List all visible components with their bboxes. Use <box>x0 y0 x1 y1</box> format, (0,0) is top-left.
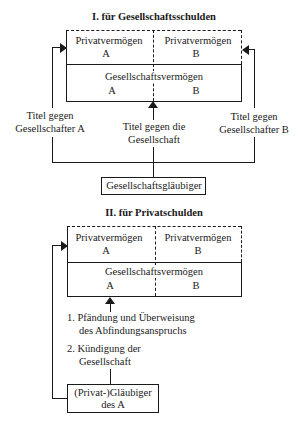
creditor-connector <box>52 162 255 163</box>
step1-line1: Pfändung und Überweisung <box>78 312 195 323</box>
arrow-right-icon <box>61 241 68 251</box>
path-company-upper <box>153 106 154 120</box>
path-from-creditor <box>52 398 67 399</box>
section1-title: I. für Gesellschaftsschulden <box>92 11 216 23</box>
company-assets-a: A <box>108 85 116 97</box>
private-assets-b-label: Privatvermögen <box>164 35 231 47</box>
private-creditor-line2: des A <box>101 399 125 411</box>
arrow-left-icon <box>242 45 249 55</box>
path-b-to-arrow <box>248 49 255 50</box>
private-creditor-box: (Privat-)Gläubiger des A <box>67 384 159 413</box>
private-assets-a-label: Privatvermögen <box>75 35 142 47</box>
private-assets-top-border <box>67 226 241 227</box>
title-against-company-line1: Titel gegen die <box>123 121 186 133</box>
path-to-arrow <box>52 245 61 246</box>
path-steps-lower <box>110 369 111 384</box>
private-assets-a-owner: A <box>102 48 110 60</box>
path-a-lower <box>52 137 53 162</box>
arrow-right-icon <box>60 43 67 53</box>
step1-text: 1. Pfändung und Überweisung <box>67 312 195 324</box>
private-assets-a-label: Privatvermögen <box>75 232 142 244</box>
company-assets-label: Gesellschaftsvermögen <box>104 71 204 83</box>
title-against-a-line2: Gesellschafter A <box>15 123 85 135</box>
title-against-company-line2: Gesellschaft <box>128 134 180 146</box>
company-assets-a: A <box>106 280 114 292</box>
step2-number: 2. <box>67 343 75 354</box>
company-assets-b: B <box>192 280 199 292</box>
path-b-lower <box>254 137 255 162</box>
step2-line1: Kündigung der <box>78 343 141 354</box>
company-assets-box <box>66 64 242 102</box>
company-assets-b: B <box>192 85 199 97</box>
creditor-box: Gesellschaftsgläubiger <box>101 177 206 195</box>
company-assets-label: Gesellschaftsvermögen <box>104 266 204 278</box>
section2-title: II. für Privatschulden <box>105 207 203 219</box>
private-assets-b-owner: B <box>192 48 199 60</box>
step2-text: 2. Kündigung der <box>67 343 141 355</box>
title-against-b-line1: Titel gegen <box>230 111 277 123</box>
title-against-b-line2: Gesellschafter B <box>219 124 289 136</box>
creditor-label: Gesellschaftsgläubiger <box>106 180 202 192</box>
private-assets-a-owner: A <box>102 245 110 257</box>
private-assets-right-border <box>241 226 242 262</box>
path-private-a <box>52 245 53 399</box>
private-assets-b-owner: B <box>194 245 201 257</box>
private-creditor-line1: (Privat-)Gläubiger <box>74 387 152 399</box>
path-b-upper <box>254 49 255 108</box>
step2-line2: Gesellschaft <box>79 356 131 368</box>
private-assets-b-label: Privatvermögen <box>164 232 231 244</box>
step1-number: 1. <box>67 312 75 323</box>
path-steps-upper <box>110 302 111 312</box>
step1-line2: des Abfindungsanspruchs <box>79 325 187 337</box>
path-a-to-arrow <box>52 47 60 48</box>
path-a-upper <box>52 47 53 108</box>
title-against-a-line1: Titel gegen <box>26 110 73 122</box>
